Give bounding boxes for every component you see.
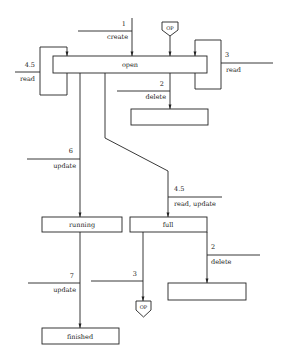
connector-label: OP xyxy=(140,304,148,310)
transition-number: 4.5 xyxy=(25,61,35,69)
transition-number: 2 xyxy=(160,80,164,88)
state-box-empty-top[interactable] xyxy=(131,109,208,125)
transition-number: 1 xyxy=(122,20,126,28)
transition-operation: read xyxy=(20,75,35,83)
state-label: open xyxy=(122,61,138,69)
transition-full-to-op: 3 xyxy=(91,232,143,301)
op-connector-top: OP xyxy=(162,22,178,56)
transition-update-finished: 7 update xyxy=(28,232,80,328)
transition-number: 2 xyxy=(211,243,215,251)
transition-number: 3 xyxy=(133,270,137,278)
state-label: running xyxy=(69,221,95,229)
transition-operation: update xyxy=(53,162,76,170)
transition-number: 3 xyxy=(225,51,229,59)
transition-operation: update xyxy=(53,286,76,294)
connector-label: OP xyxy=(166,25,174,31)
transition-number: 6 xyxy=(69,147,73,155)
transition-number: 4.5 xyxy=(174,185,184,193)
transition-create: 1 create xyxy=(78,18,132,56)
transition-operation: delete xyxy=(211,258,232,266)
state-running[interactable]: running xyxy=(42,217,122,232)
transition-operation: read, update xyxy=(174,200,216,208)
op-connector-bottom: OP xyxy=(136,301,151,317)
state-box-empty-bottom[interactable] xyxy=(168,283,246,300)
state-finished[interactable]: finished xyxy=(42,328,119,344)
state-label: full xyxy=(163,221,174,229)
transition-operation: read xyxy=(226,66,241,74)
state-full[interactable]: full xyxy=(130,217,207,232)
state-label: finished xyxy=(67,333,93,341)
transition-delete-full: 2 delete xyxy=(207,232,260,283)
transition-number: 7 xyxy=(70,272,74,280)
state-empty-top[interactable] xyxy=(131,109,208,125)
transition-operation: create xyxy=(107,33,128,41)
state-open[interactable]: open xyxy=(53,56,207,73)
state-empty-bottom[interactable] xyxy=(168,283,246,300)
transition-delete-open: 2 delete xyxy=(117,73,170,109)
transition-operation: delete xyxy=(146,93,167,101)
state-diagram: 1 create OP 4.5 read 3 read open 2 delet… xyxy=(0,0,289,362)
